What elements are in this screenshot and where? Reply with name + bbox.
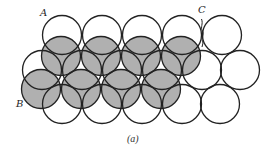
label-a: A (40, 8, 47, 18)
label-c: C (198, 5, 206, 15)
label-b: B (16, 99, 23, 109)
figure-caption: (a) (127, 134, 139, 144)
sphere-packing-diagram (0, 0, 268, 149)
